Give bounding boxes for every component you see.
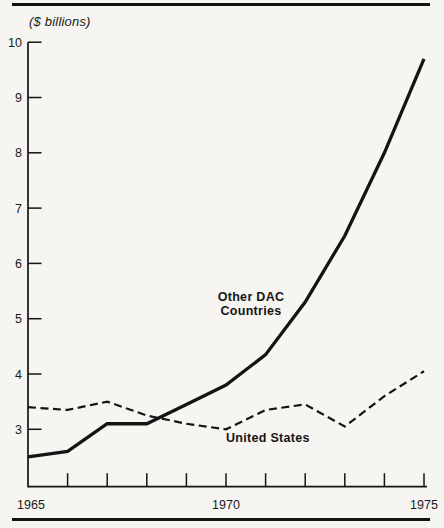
chart-figure: ($ billions) 109876543196519701975 Other… bbox=[0, 0, 444, 528]
y-axis-tick-label: 6 bbox=[15, 257, 22, 271]
series-label-united-states: United States bbox=[226, 431, 310, 445]
y-axis-tick-label: 9 bbox=[15, 91, 22, 105]
series-line-other-dac-countries bbox=[28, 59, 424, 457]
x-axis-tick-label: 1970 bbox=[212, 498, 240, 512]
series-label-other-dac-countries: Other DAC Countries bbox=[208, 291, 294, 318]
series-line-united-states bbox=[28, 371, 424, 429]
y-axis-tick-label: 3 bbox=[15, 423, 22, 437]
axis-lines bbox=[28, 42, 427, 487]
y-axis-tick-label: 10 bbox=[8, 36, 22, 50]
line-chart-canvas: 109876543196519701975 bbox=[0, 0, 444, 528]
y-axis-tick-label: 8 bbox=[15, 146, 22, 160]
y-axis-tick-label: 4 bbox=[15, 368, 22, 382]
x-axis-tick-label: 1975 bbox=[410, 498, 438, 512]
x-axis-tick-label: 1965 bbox=[17, 498, 45, 512]
bottom-rule bbox=[12, 518, 430, 521]
y-axis-tick-label: 5 bbox=[15, 312, 22, 326]
y-axis-tick-label: 7 bbox=[15, 202, 22, 216]
